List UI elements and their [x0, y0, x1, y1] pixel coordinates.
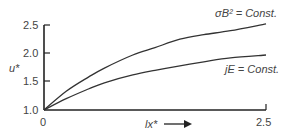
y-tick-label-1.5: 1.5	[23, 75, 38, 87]
y-tick-label-2.0: 2.0	[23, 47, 38, 59]
y-axis-label: u*	[9, 62, 20, 74]
x-tick-label-2.5: 2.5	[256, 116, 271, 128]
x-direction-arrow-icon	[164, 120, 192, 128]
y-tick-label-2.5: 2.5	[23, 19, 38, 31]
y-tick-label-1.0: 1.0	[23, 104, 38, 116]
annotation-lower-curve: jE = Const.	[223, 63, 279, 75]
chart: 2.5 2.0 1.5 1.0 0 2.5 u* lx* σB² = Const…	[0, 0, 283, 135]
x-tick-label-0: 0	[40, 116, 46, 128]
annotation-upper-curve: σB² = Const.	[215, 7, 277, 19]
x-axis-label: lx*	[145, 118, 158, 130]
